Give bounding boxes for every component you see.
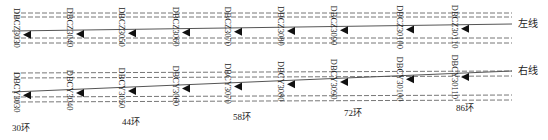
direction-arrow-icon xyxy=(234,82,242,90)
centerline-right-line xyxy=(12,71,512,92)
direction-arrow-icon xyxy=(128,87,136,95)
monitoring-point-label: DBCZ3040 xyxy=(65,8,75,48)
monitoring-point-label: DBCZ3060 xyxy=(171,7,181,47)
direction-arrow-icon xyxy=(461,73,469,81)
ring-labels: 30环44环58环72环86环 xyxy=(12,103,474,133)
direction-arrow-icon xyxy=(287,80,295,88)
monitoring-point-label: DBCY30100 xyxy=(395,57,405,102)
ring-label: 86环 xyxy=(456,103,474,113)
monitoring-point-label: DBCY3060 xyxy=(171,65,181,106)
direction-arrow-icon xyxy=(406,25,414,33)
ring-label: 44环 xyxy=(122,117,140,127)
monitoring-point-label: DBCZ30100 xyxy=(395,5,405,49)
direction-arrow-icon xyxy=(182,85,190,93)
monitoring-point-label: DBCY30110 xyxy=(450,54,460,99)
direction-arrow-icon xyxy=(340,78,348,86)
centerline-left-line xyxy=(12,24,512,31)
monitoring-point-label: DBCZ3070 xyxy=(223,6,233,46)
monitoring-point-label: DBCZ3080 xyxy=(276,6,286,46)
direction-arrow-icon xyxy=(234,28,242,36)
monitoring-point-label: DBCZ3050 xyxy=(117,7,127,47)
ring-label: 30环 xyxy=(12,123,30,133)
monitoring-point-label: DBCY3090 xyxy=(329,59,339,100)
direction-arrow-icon xyxy=(76,30,84,38)
monitoring-point-label: DBCY3050 xyxy=(117,68,127,109)
monitoring-point-label: DBCZ3090 xyxy=(329,6,339,46)
monitoring-point-label: DBCY3080 xyxy=(276,61,286,102)
boundary-right-top-0 xyxy=(14,71,512,73)
monitoring-point-label: DBCZ3030 xyxy=(12,8,22,48)
boundary-right-bottom-0 xyxy=(14,95,512,97)
direction-arrow-icon xyxy=(23,91,31,99)
monitoring-point-label: DBCY3030 xyxy=(12,72,22,113)
direction-arrow-icon xyxy=(182,29,190,37)
line-name-labels: 左线右线 xyxy=(518,17,538,76)
ring-label: 72环 xyxy=(344,108,362,118)
tunnel-centerlines xyxy=(12,24,512,92)
ring-label: 58环 xyxy=(233,112,251,122)
tunnel-layout-diagram: DBCZ3030DBCZ3040DBCZ3050DBCZ3060DBCZ3070… xyxy=(0,0,548,140)
right-line-label: 右线 xyxy=(518,64,538,76)
monitoring-point-label: DBCY3040 xyxy=(65,70,75,111)
direction-arrow-icon xyxy=(461,25,469,33)
monitoring-point-label: DBCZ30110 xyxy=(450,5,460,49)
boundary-right-top-1 xyxy=(14,76,512,78)
monitoring-point-label: DBCY3070 xyxy=(223,63,233,104)
direction-arrow-icon xyxy=(340,26,348,34)
direction-arrow-icon xyxy=(287,27,295,35)
direction-arrow-icon xyxy=(76,89,84,97)
boundary-right-bottom-1 xyxy=(14,100,512,102)
direction-arrow-icon xyxy=(128,29,136,37)
left-line-label: 左线 xyxy=(518,17,538,29)
